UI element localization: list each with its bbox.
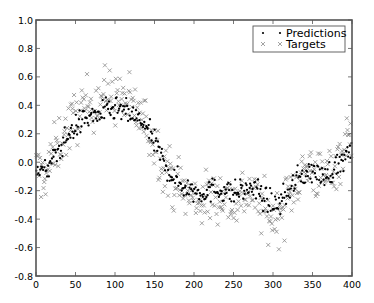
scatter-chart: 050100150200250300350400 -0.8-0.6-0.4-0.… xyxy=(0,0,374,303)
plot-frame xyxy=(36,20,352,276)
legend: Predictions Targets xyxy=(253,26,347,52)
dot-marker-icon xyxy=(262,32,264,34)
x-tick-label: 150 xyxy=(145,279,163,290)
y-tick-label: 0.0 xyxy=(18,157,33,168)
y-tick-label: 1.0 xyxy=(18,15,33,26)
x-tick-label: 350 xyxy=(303,279,321,290)
x-tick-label: 100 xyxy=(106,279,124,290)
legend-label-targets: Targets xyxy=(285,38,326,51)
data-points xyxy=(34,63,353,251)
y-tick-label: 0.8 xyxy=(18,43,33,54)
y-tick-label: -0.4 xyxy=(14,214,33,225)
y-axis-tick-labels: -0.8-0.6-0.4-0.20.00.20.40.60.81.0 xyxy=(14,15,33,282)
axis-ticks xyxy=(36,20,352,276)
y-tick-label: 0.2 xyxy=(18,128,33,139)
x-tick-label: 250 xyxy=(224,279,242,290)
x-axis-tick-labels: 050100150200250300350400 xyxy=(33,279,361,290)
y-tick-label: 0.6 xyxy=(18,71,33,82)
x-tick-label: 400 xyxy=(343,279,361,290)
y-tick-label: -0.2 xyxy=(14,185,33,196)
dot-marker-icon xyxy=(279,32,281,34)
y-tick-label: -0.8 xyxy=(14,271,33,282)
y-tick-label: 0.4 xyxy=(18,100,33,111)
x-tick-label: 50 xyxy=(69,279,81,290)
x-tick-label: 0 xyxy=(33,279,39,290)
y-tick-label: -0.6 xyxy=(14,242,33,253)
x-tick-label: 300 xyxy=(264,279,282,290)
x-tick-label: 200 xyxy=(185,279,203,290)
